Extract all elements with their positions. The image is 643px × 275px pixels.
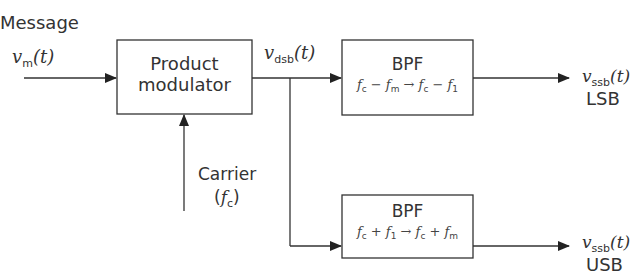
- argument: (t): [294, 42, 315, 63]
- sub: m: [449, 231, 458, 241]
- bpf-lsb-label: BPF fc − fm → fc − f1: [342, 55, 473, 94]
- symbol-v: v: [12, 46, 22, 67]
- lsb-label: LSB: [586, 90, 620, 108]
- argument: (t): [610, 66, 630, 86]
- sub: 1: [452, 84, 458, 94]
- bpf-name: BPF: [342, 202, 473, 222]
- argument: (t): [33, 46, 54, 67]
- usb-label: USB: [586, 256, 623, 274]
- message-signal-label: vm(t): [12, 48, 54, 69]
- op: −: [428, 77, 447, 92]
- symbol-v: v: [582, 232, 592, 252]
- subscript: m: [22, 57, 33, 70]
- subscript: dsb: [274, 53, 294, 66]
- bpf-usb-label: BPF fc + f1 → fc + fm: [342, 202, 473, 241]
- op: +: [425, 224, 444, 239]
- product-modulator-label: Product modulator: [117, 54, 252, 95]
- carrier-symbol: (fc): [214, 189, 240, 209]
- arrow: →: [399, 77, 418, 92]
- op: −: [367, 77, 386, 92]
- carrier-label: Carrier: [198, 166, 256, 183]
- symbol-v: v: [264, 42, 274, 63]
- bpf-name: BPF: [342, 55, 473, 75]
- modulator-line2: modulator: [117, 75, 252, 96]
- bpf-usb-formula: fc + f1 → fc + fm: [342, 225, 473, 241]
- paren-close: ): [233, 187, 240, 207]
- dsb-signal-label: vdsb(t): [264, 44, 315, 65]
- symbol-v: v: [582, 66, 592, 86]
- argument: (t): [610, 232, 630, 252]
- bpf-lsb-formula: fc − fm → fc − f1: [342, 78, 473, 94]
- paren-open: (: [214, 187, 221, 207]
- modulator-line1: Product: [117, 54, 252, 75]
- op: +: [367, 224, 386, 239]
- lsb-output-signal: vssb(t): [582, 68, 630, 88]
- diagram-canvas: [0, 0, 643, 275]
- message-label: Message: [0, 14, 79, 32]
- usb-output-signal: vssb(t): [582, 234, 630, 254]
- arrow: →: [396, 224, 415, 239]
